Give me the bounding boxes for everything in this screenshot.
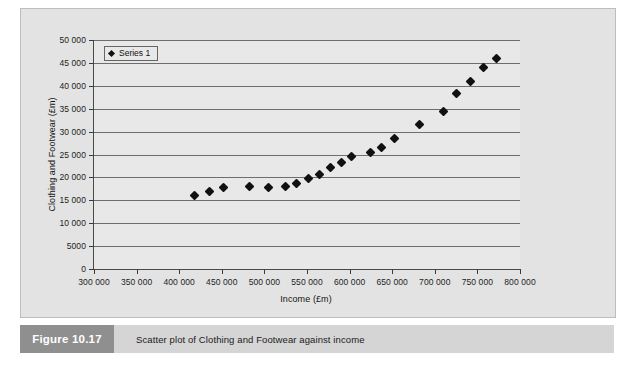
y-tick-label: 40 000: [59, 81, 86, 91]
data-point[interactable]: [451, 88, 461, 98]
figure-page: Series 1 0500010 00015 00020 00025 00030…: [0, 0, 634, 372]
data-point[interactable]: [415, 119, 425, 129]
y-tick-label: 30 000: [59, 127, 86, 137]
y-tick-mark: [89, 155, 94, 156]
data-point[interactable]: [245, 181, 255, 191]
y-tick-mark: [89, 86, 94, 87]
y-axis-title: Clothing and Footwear (£m): [47, 40, 61, 269]
y-gridline: [94, 40, 520, 41]
x-tick-label: 800 000: [504, 277, 535, 287]
x-tick-label: 700 000: [419, 277, 450, 287]
x-tick-label: 550 000: [291, 277, 322, 287]
y-tick-mark: [89, 109, 94, 110]
y-tick-mark: [89, 223, 94, 224]
y-gridline: [94, 63, 520, 64]
x-tick-label: 750 000: [462, 277, 493, 287]
x-tick-mark: [264, 269, 265, 274]
data-point[interactable]: [304, 174, 314, 184]
data-point[interactable]: [326, 163, 336, 173]
x-tick-mark: [435, 269, 436, 274]
data-point[interactable]: [204, 186, 214, 196]
legend-entry-label: Series 1: [119, 49, 150, 58]
data-point[interactable]: [336, 158, 346, 168]
y-tick-label: 5000: [67, 241, 86, 251]
figure-caption-bar: Figure 10.17 Scatter plot of Clothing an…: [20, 325, 614, 353]
x-tick-label: 400 000: [163, 277, 194, 287]
data-point[interactable]: [491, 53, 501, 63]
x-tick-mark: [350, 269, 351, 274]
y-gridline: [94, 109, 520, 110]
data-point[interactable]: [466, 76, 476, 86]
data-point[interactable]: [292, 179, 302, 189]
x-tick-mark: [222, 269, 223, 274]
chart-legend[interactable]: Series 1: [104, 46, 158, 61]
y-tick-mark: [89, 246, 94, 247]
x-axis-title: Income (£m): [93, 294, 519, 304]
x-tick-mark: [179, 269, 180, 274]
x-tick-label: 300 000: [78, 277, 109, 287]
data-point[interactable]: [376, 142, 386, 152]
y-gridline: [94, 86, 520, 87]
y-gridline: [94, 200, 520, 201]
x-tick-mark: [520, 269, 521, 274]
figure-number-label: Figure 10.17: [20, 325, 114, 353]
y-tick-label: 10 000: [59, 218, 86, 228]
y-tick-mark: [89, 177, 94, 178]
data-point[interactable]: [390, 133, 400, 143]
y-gridline: [94, 132, 520, 133]
x-tick-label: 350 000: [121, 277, 152, 287]
y-tick-label: 25 000: [59, 150, 86, 160]
data-point[interactable]: [264, 182, 274, 192]
data-point[interactable]: [219, 183, 229, 193]
y-gridline: [94, 246, 520, 247]
data-point[interactable]: [346, 151, 356, 161]
data-point[interactable]: [281, 181, 291, 191]
x-tick-mark: [137, 269, 138, 274]
x-tick-label: 600 000: [334, 277, 365, 287]
y-gridline: [94, 155, 520, 156]
y-tick-label: 0: [81, 264, 86, 274]
y-gridline: [94, 223, 520, 224]
plot-area: Series 1 0500010 00015 00020 00025 00030…: [93, 40, 520, 270]
x-tick-mark: [477, 269, 478, 274]
x-tick-mark: [94, 269, 95, 274]
x-tick-mark: [392, 269, 393, 274]
y-tick-label: 45 000: [59, 58, 86, 68]
y-tick-mark: [89, 40, 94, 41]
y-tick-label: 35 000: [59, 104, 86, 114]
y-tick-label: 50 000: [59, 35, 86, 45]
figure-caption-text: Scatter plot of Clothing and Footwear ag…: [114, 325, 614, 353]
x-tick-mark: [307, 269, 308, 274]
data-point[interactable]: [478, 63, 488, 73]
x-tick-label: 450 000: [206, 277, 237, 287]
data-point[interactable]: [366, 147, 376, 157]
y-tick-label: 20 000: [59, 172, 86, 182]
figure-panel: Series 1 0500010 00015 00020 00025 00030…: [20, 8, 616, 318]
x-tick-label: 650 000: [376, 277, 407, 287]
diamond-marker-icon: [108, 50, 115, 57]
y-tick-mark: [89, 200, 94, 201]
x-tick-label: 500 000: [249, 277, 280, 287]
data-point[interactable]: [190, 191, 200, 201]
scatter-chart: Series 1 0500010 00015 00020 00025 00030…: [21, 9, 615, 317]
y-tick-mark: [89, 63, 94, 64]
y-tick-label: 15 000: [59, 195, 86, 205]
y-tick-mark: [89, 132, 94, 133]
